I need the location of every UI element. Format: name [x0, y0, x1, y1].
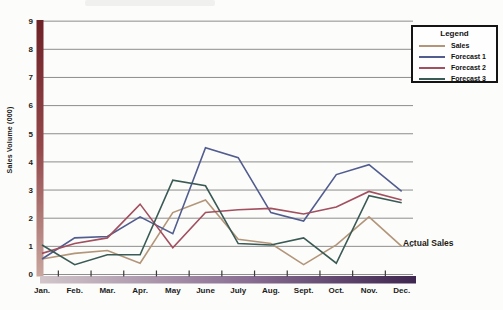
- x-tick-label-Nov: Nov.: [361, 286, 378, 295]
- legend: Legend Sales Forecast 1 Forecast 2 Forec…: [411, 25, 498, 83]
- legend-label: Sales: [451, 42, 469, 49]
- y-tick-label-1: 1: [29, 242, 34, 251]
- x-tick-labels: Jan.Feb.Mar.Apr.MayJuneJulyAug.Sept.Oct.…: [34, 286, 410, 295]
- series-line-sales: [42, 200, 402, 265]
- y-axis-title: Sales Volume (000): [6, 107, 13, 174]
- legend-item-sales: Sales: [413, 40, 496, 51]
- legend-item-forecast-3: Forecast 3: [413, 73, 496, 84]
- x-tick-label-Jan: Jan.: [34, 286, 50, 295]
- y-tick-label-3: 3: [29, 186, 34, 195]
- legend-label: Forecast 3: [451, 75, 486, 82]
- x-tick-label-Feb: Feb.: [66, 286, 82, 295]
- series-lines: [42, 148, 402, 265]
- x-tick-label-Dec: Dec.: [393, 286, 410, 295]
- actual-sales-annotation: Actual Sales: [403, 238, 454, 248]
- y-tick-label-4: 4: [29, 158, 34, 167]
- x-axis-bar: [40, 276, 416, 284]
- legend-item-forecast-1: Forecast 1: [413, 51, 496, 62]
- legend-swatch-forecast-2: [419, 67, 445, 69]
- y-tick-labels: 0123456789: [29, 17, 34, 279]
- series-line-forecast-2: [42, 191, 402, 253]
- legend-swatch-forecast-1: [419, 56, 445, 58]
- x-axis-ticks: [58, 271, 385, 277]
- y-tick-label-5: 5: [29, 130, 34, 139]
- legend-label: Forecast 2: [451, 64, 486, 71]
- y-axis-bar: [37, 20, 44, 277]
- legend-item-forecast-2: Forecast 2: [413, 62, 496, 73]
- y-tick-label-9: 9: [29, 17, 34, 26]
- legend-label: Forecast 1: [451, 53, 486, 60]
- legend-swatch-sales: [419, 45, 445, 47]
- sales-forecast-chart-panel: 0123456789 Jan.Feb.Mar.Apr.MayJuneJulyAu…: [0, 0, 503, 310]
- x-tick-label-June: June: [196, 286, 215, 295]
- y-tick-label-8: 8: [29, 45, 34, 54]
- x-tick-label-July: July: [230, 286, 247, 295]
- x-tick-label-Apr: Apr.: [132, 286, 148, 295]
- y-tick-label-6: 6: [29, 101, 34, 110]
- x-tick-label-Mar: Mar.: [99, 286, 115, 295]
- x-tick-label-Oct: Oct.: [329, 286, 345, 295]
- legend-swatch-forecast-3: [419, 78, 445, 80]
- y-tick-label-0: 0: [29, 270, 34, 279]
- y-tick-label-2: 2: [29, 214, 34, 223]
- x-tick-label-Aug: Aug.: [262, 286, 280, 295]
- x-tick-label-Sept: Sept.: [294, 286, 314, 295]
- y-tick-label-7: 7: [29, 73, 34, 82]
- series-line-forecast-1: [42, 148, 402, 259]
- x-tick-label-May: May: [165, 286, 181, 295]
- legend-title: Legend: [413, 29, 496, 38]
